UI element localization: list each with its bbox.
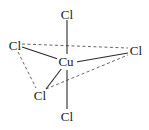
atom-cl-left: Cl: [9, 38, 22, 53]
atom-cu: Cu: [58, 54, 74, 69]
atom-cl-top: Cl: [61, 7, 74, 22]
dashed-edge-left-lowerleft: [18, 52, 36, 88]
bond-cu-lowerleft-cl: [46, 68, 62, 89]
cucl5-structure-diagram: Cu Cl Cl Cl Cl Cl: [0, 0, 149, 130]
dashed-edge-left-right: [22, 44, 128, 48]
bond-cu-right-cl: [76, 53, 128, 62]
atom-cl-bottom: Cl: [61, 109, 74, 124]
atom-cl-lower-left: Cl: [34, 88, 47, 103]
atom-cl-right: Cl: [130, 43, 143, 58]
bond-cu-left-cl: [22, 47, 58, 59]
